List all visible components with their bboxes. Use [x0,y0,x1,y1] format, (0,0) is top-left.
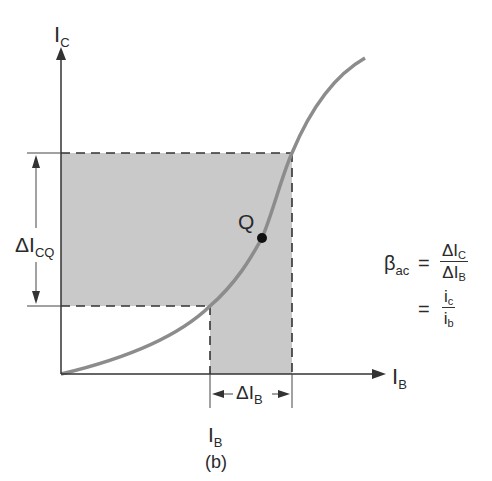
right-arrow-icon [278,390,290,398]
transfer-characteristic-diagram [0,0,492,481]
up-arrow-icon [32,155,40,168]
y-axis-label: IC [54,24,70,46]
q-point-marker [257,233,267,243]
ib-tick-label: IB [208,424,223,445]
x-axis-label: IB [392,366,407,388]
shaded-region-delta-ic [61,153,292,306]
shaded-region-delta-ib [210,306,292,374]
fraction-delta-ic-over-delta-ib: ΔIC ΔIB [440,242,468,281]
beta-ac-symbol: βac [384,253,409,273]
delta-icq-label: ΔICQ [14,234,55,255]
x-axis-arrow-icon [372,369,386,379]
equals-sign-1: = [418,253,430,273]
figure-caption: (b) [205,453,227,471]
left-arrow-icon [212,390,224,398]
q-point-label: Q [238,211,254,232]
down-arrow-icon [32,291,40,304]
equals-sign-2: = [418,299,430,319]
fraction-ic-over-ib: ic ib [442,288,455,327]
delta-ib-label: ΔIB [236,383,263,402]
delta-icq-dimension [27,153,61,306]
